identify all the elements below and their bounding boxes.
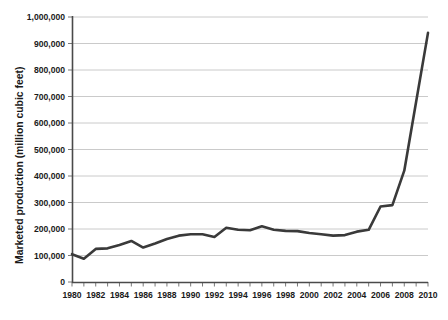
y-axis-tick-label: 400,000 [34,171,65,181]
y-axis-tick-label: 900,000 [34,39,65,49]
x-axis-tick-label: 1980 [62,290,81,300]
y-axis-tick-label: 500,000 [34,145,65,155]
x-axis-tick-label: 1988 [157,290,176,300]
x-axis-tick-label: 2006 [371,290,390,300]
x-axis-tick-label: 1992 [205,290,224,300]
chart-figure: 0100,000200,000300,000400,000500,000600,… [0,0,448,320]
x-axis-tick-label: 2002 [324,290,343,300]
x-axis-tick-label: 1984 [110,290,129,300]
x-axis-tick-label: 1994 [229,290,248,300]
y-axis-tick-label: 0 [60,277,65,287]
x-axis-tick-label: 1996 [252,290,271,300]
x-axis-tick-label: 2010 [418,290,437,300]
y-axis-tick-label: 100,000 [34,251,65,261]
y-axis-tick-label: 200,000 [34,224,65,234]
x-axis-tick-label: 1998 [276,290,295,300]
y-axis-title: Marketed production (million cubic feet) [14,67,25,264]
x-axis-tick-label: 1986 [134,290,153,300]
x-axis-tick-label: 2000 [300,290,319,300]
y-axis-tick-label: 300,000 [34,198,65,208]
y-axis-tick-label: 700,000 [34,92,65,102]
x-axis-tick-label: 1990 [181,290,200,300]
y-axis-tick-label: 1,000,000 [27,12,65,22]
line-chart: 0100,000200,000300,000400,000500,000600,… [0,0,448,320]
x-axis-tick-label: 2004 [347,290,366,300]
x-axis-tick-label: 2008 [395,290,414,300]
y-axis-tick-label: 800,000 [34,65,65,75]
y-axis-tick-label: 600,000 [34,118,65,128]
x-axis-tick-label: 1982 [86,290,105,300]
